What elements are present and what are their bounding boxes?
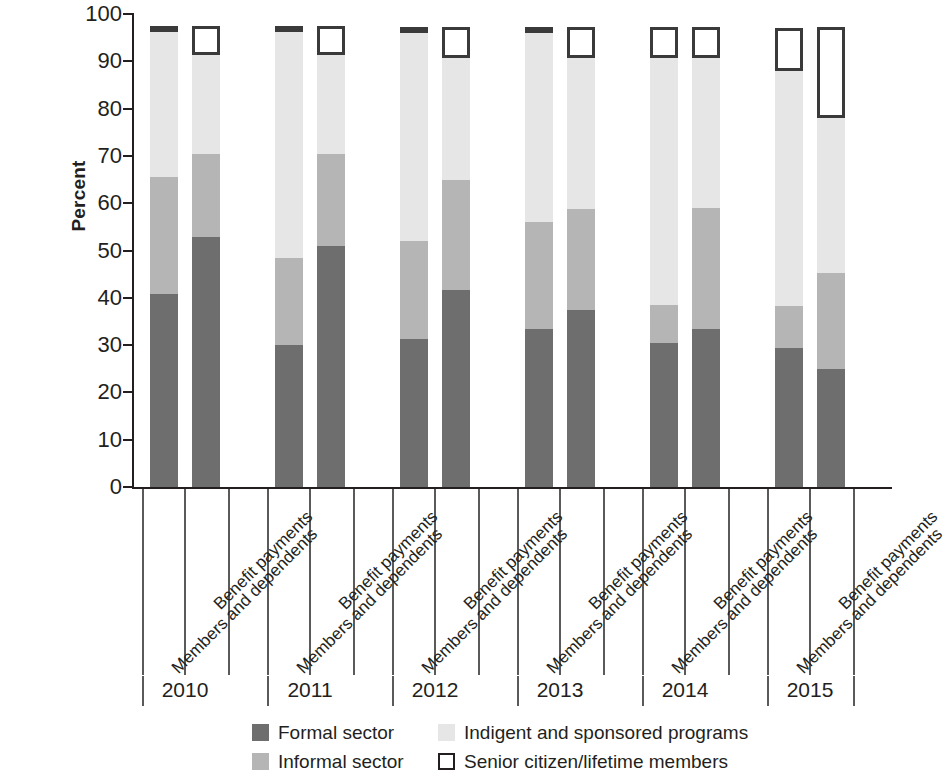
legend: Formal sector Indigent and sponsored pro… [252,718,852,776]
bar-segment-formal [817,369,845,487]
x-axis-line [132,487,892,489]
bar-segment-formal [442,290,470,487]
bar-segment-senior [775,28,803,71]
category-tick [142,489,144,675]
bar-segment-formal [567,310,595,487]
bar-segment-informal [192,154,220,237]
legend-swatch-senior-icon [438,753,455,770]
legend-label: Indigent and sponsored programs [464,722,748,744]
legend-label: Informal sector [278,751,404,773]
bar-segment-informal [525,222,553,328]
legend-swatch-indigent-icon [438,724,455,741]
bar-segment-senior [400,27,428,33]
bar-segment-indigent [275,31,303,258]
bar-segment-indigent [775,71,803,306]
legend-item-indigent-and-sponsored-programs: Indigent and sponsored programs [438,722,748,744]
bar-segment-formal [775,348,803,487]
year-label: 2014 [625,678,745,702]
bar-segment-indigent [400,32,428,242]
bar-segment-formal [150,294,178,487]
bar-segment-indigent [192,55,220,154]
bar-segment-formal [525,329,553,487]
bar-segment-senior [150,26,178,32]
bar-segment-indigent [525,32,553,223]
year-label: 2010 [125,678,245,702]
bar-segment-indigent [692,58,720,208]
legend-row: Informal sector Senior citizen/lifetime … [252,747,852,776]
bar-segment-informal [817,273,845,369]
bar-segment-formal [275,345,303,487]
legend-label: Senior citizen/lifetime members [464,751,728,773]
legend-swatch-formal-icon [252,724,269,741]
bar-segment-senior [567,27,595,58]
bar-segment-informal [567,209,595,310]
bar-segment-informal [650,305,678,343]
bar-segment-formal [692,329,720,487]
bar-segment-senior [275,26,303,32]
bar-segment-formal [317,246,345,487]
year-label: 2015 [750,678,870,702]
bar-segment-indigent [650,58,678,305]
bar-segment-indigent [817,118,845,273]
legend-item-senior-citizen-lifetime-members: Senior citizen/lifetime members [438,751,728,773]
bar-segment-formal [192,237,220,487]
bar-segment-senior [650,27,678,58]
bar-segment-indigent [442,58,470,180]
bar-segment-senior [192,26,220,55]
bar-segment-informal [442,180,470,290]
legend-swatch-informal-icon [252,753,269,770]
bar-segment-senior [442,27,470,58]
bar-segment-informal [317,154,345,246]
bar-segment-informal [692,208,720,330]
bar-segment-informal [150,177,178,294]
legend-row: Formal sector Indigent and sponsored pro… [252,718,852,747]
bar-segment-senior [692,27,720,58]
legend-label: Formal sector [278,722,394,744]
bar-segment-formal [400,339,428,487]
year-label: 2013 [500,678,620,702]
legend-item-informal-sector: Informal sector [252,751,438,773]
year-label: 2011 [250,678,370,702]
year-label: 2012 [375,678,495,702]
bar-segment-indigent [567,58,595,209]
bar-segment-informal [775,306,803,349]
bar-segment-indigent [150,31,178,178]
bar-segment-senior [317,26,345,55]
bar-segment-indigent [317,55,345,153]
legend-item-formal-sector: Formal sector [252,722,438,744]
bar-segment-senior [817,27,845,118]
bar-segment-senior [525,27,553,33]
bar-segment-informal [275,258,303,346]
bar-segment-formal [650,343,678,487]
bar-segment-informal [400,241,428,339]
